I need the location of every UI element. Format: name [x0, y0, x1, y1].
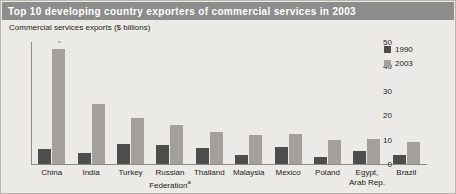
legend-label-1990: 1990: [395, 45, 413, 54]
legend-swatch-1990: [384, 46, 391, 53]
bar-2003: [407, 142, 420, 164]
bar-1990: [235, 155, 248, 164]
legend-label-2003: 2003: [395, 59, 413, 68]
chart-header-bar: Top 10 developing country exporters of c…: [2, 2, 454, 20]
x-axis-category-label: India: [82, 168, 99, 178]
x-axis-category-label: Malaysia: [233, 168, 265, 178]
bar-group: Egypt,Arab Rep.: [347, 42, 386, 164]
bar-2003: [328, 140, 341, 164]
x-axis-category-label-line: Russian: [149, 168, 191, 178]
bar-group: Malaysia: [229, 42, 268, 164]
footnote-marker: a: [187, 179, 190, 185]
x-axis-category-label-line: Poland: [315, 168, 340, 178]
x-axis-category-label-line: Federationa: [149, 178, 191, 190]
x-axis-category-label: Brazil: [396, 168, 416, 178]
x-axis-category-label: Turkey: [118, 168, 142, 178]
x-axis-category-label-line: Arab Rep.: [349, 178, 385, 188]
legend-swatch-2003: [384, 60, 391, 67]
bar-2003: [289, 134, 302, 165]
bar-2003: [249, 135, 262, 164]
bar-1990: [275, 147, 288, 164]
x-axis-category-label: RussianFederationa: [149, 168, 191, 190]
x-axis-category-label: China: [41, 168, 62, 178]
x-axis-category-label: Poland: [315, 168, 340, 178]
x-axis-category-label-line: India: [82, 168, 99, 178]
bar-1990: [156, 145, 169, 164]
bar-2003: [170, 125, 183, 164]
bar-group: China: [32, 42, 71, 164]
bar-1990: [393, 155, 406, 164]
x-axis-category-label-line: Egypt,: [349, 168, 385, 178]
legend-item-1990: 1990: [384, 45, 413, 54]
legend-item-2003: 2003: [384, 59, 413, 68]
x-axis-category-label-line: Mexico: [275, 168, 300, 178]
bar-2003: [210, 132, 223, 164]
bar-1990: [117, 144, 130, 164]
bar-2003: [52, 49, 65, 164]
chart-title: Top 10 developing country exporters of c…: [2, 6, 356, 17]
bar-1990: [78, 153, 91, 164]
bar-2003: [367, 139, 380, 164]
bar-1990: [38, 149, 51, 164]
bar-1990: [314, 157, 327, 164]
chart-legend: 19902003: [384, 45, 413, 73]
chart-subtitle: Commercial services exports ($ billions): [9, 23, 150, 32]
bar-2003: [131, 118, 144, 164]
x-axis-category-label: Mexico: [275, 168, 300, 178]
chart-figure: Top 10 developing country exporters of c…: [0, 0, 456, 194]
bar-group: RussianFederationa: [150, 42, 189, 164]
bar-group: Thailand: [190, 42, 229, 164]
x-axis-category-label-line: China: [41, 168, 62, 178]
x-axis-line: [31, 164, 427, 165]
x-axis-category-label: Egypt,Arab Rep.: [349, 168, 385, 187]
x-axis-category-label-line: Thailand: [194, 168, 225, 178]
x-axis-category-label: Thailand: [194, 168, 225, 178]
bar-2003: [92, 104, 105, 164]
bar-group: Turkey: [111, 42, 150, 164]
plot-area: 01020304050 ChinaIndiaTurkeyRussianFeder…: [31, 42, 426, 164]
bar-group: Mexico: [268, 42, 307, 164]
bar-group: India: [71, 42, 110, 164]
x-axis-category-label-line: Brazil: [396, 168, 416, 178]
x-axis-category-label-line: Malaysia: [233, 168, 265, 178]
bar-1990: [353, 151, 366, 164]
bar-1990: [196, 148, 209, 164]
x-axis-category-label-line: Turkey: [118, 168, 142, 178]
bar-group: Poland: [308, 42, 347, 164]
bar-groups: ChinaIndiaTurkeyRussianFederationaThaila…: [32, 42, 426, 164]
